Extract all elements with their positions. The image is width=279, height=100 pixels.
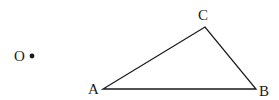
label-c: C xyxy=(198,7,208,23)
triangle-abc xyxy=(103,27,256,89)
triangle-diagram: O A B C xyxy=(0,0,279,100)
label-o: O xyxy=(14,48,25,64)
label-b: B xyxy=(259,83,269,99)
point-o-dot xyxy=(30,54,35,59)
label-a: A xyxy=(88,81,99,97)
